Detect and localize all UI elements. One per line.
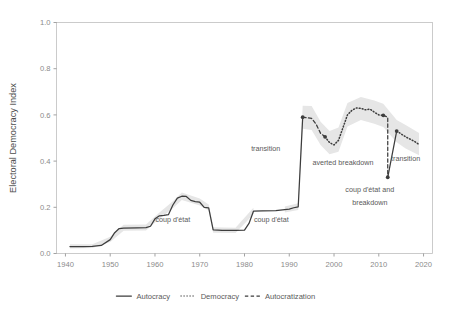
chart-legend: AutocracyDemocracyAutocratization [116, 292, 315, 301]
annotation-transition-1: transition [251, 144, 280, 153]
y-axis-title: Electoral Democracy Index [8, 83, 18, 193]
data-point-marker-2 [381, 113, 385, 117]
annotation-transition-2: transition [391, 154, 420, 163]
x-tick-label: 2000 [326, 260, 343, 269]
y-tick-label: 1.0 [40, 18, 51, 27]
annotation-coup-breakdown-line2: breakdown [352, 198, 387, 207]
y-tick-label: 0.0 [40, 249, 51, 258]
x-tick-label: 2010 [370, 260, 387, 269]
annotation-coup-breakdown-line1: coup d'état and [345, 185, 394, 194]
legend-label-autocratization: Autocratization [265, 292, 315, 301]
data-point-marker-3 [386, 175, 390, 179]
x-tick-label: 1940 [57, 260, 74, 269]
y-tick-label: 0.4 [40, 157, 51, 166]
annotation-averted-breakdown: averted breakdown [312, 158, 373, 167]
x-tick-label: 1990 [281, 260, 298, 269]
y-tick-label: 0.8 [40, 64, 51, 73]
electoral-democracy-index-chart: 0.00.20.40.60.81.0 194019501960197019801… [0, 0, 451, 313]
data-point-marker-1 [323, 135, 327, 139]
x-tick-label: 1960 [147, 260, 164, 269]
x-tick-label: 2020 [415, 260, 432, 269]
data-point-marker-4 [395, 129, 399, 133]
x-tick-label: 1950 [102, 260, 119, 269]
legend-label-autocracy: Autocracy [136, 292, 170, 301]
y-tick-label: 0.2 [40, 203, 51, 212]
chart-figure: 0.00.20.40.60.81.0 194019501960197019801… [0, 0, 451, 313]
x-tick-label: 1980 [236, 260, 253, 269]
data-point-marker-0 [301, 115, 305, 119]
x-tick-label: 1970 [191, 260, 208, 269]
annotation-coup-detat-2: coup d'état [254, 215, 289, 224]
annotation-coup-detat-1: coup d'état [155, 215, 190, 224]
y-tick-label: 0.6 [40, 111, 51, 120]
legend-label-democracy: Democracy [201, 292, 240, 301]
